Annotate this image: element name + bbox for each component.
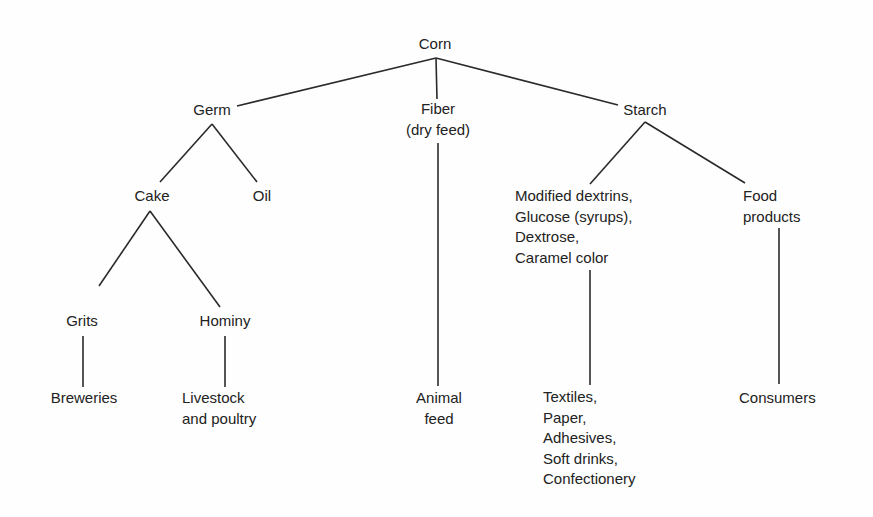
edge-germ-cake — [160, 124, 212, 182]
node-grits: Grits — [66, 311, 98, 332]
node-animal-feed: Animal feed — [416, 388, 462, 429]
node-corn: Corn — [419, 34, 452, 55]
node-label: Animal — [416, 388, 462, 409]
tree-edges — [0, 0, 873, 517]
node-label: Textiles, — [543, 387, 636, 408]
node-industrial-uses: Textiles, Paper, Adhesives, Soft drinks,… — [543, 387, 636, 490]
node-label: (dry feed) — [406, 120, 470, 141]
edge-cake-grits — [99, 211, 150, 286]
node-label: Confectionery — [543, 469, 636, 490]
node-germ: Germ — [193, 100, 231, 121]
node-consumers: Consumers — [739, 388, 816, 409]
node-hominy: Hominy — [200, 311, 251, 332]
edge-corn-fiber — [436, 58, 437, 99]
node-breweries: Breweries — [51, 388, 118, 409]
edge-germ-oil — [212, 124, 257, 182]
node-oil: Oil — [253, 186, 271, 207]
node-label: Dextrose, — [515, 227, 633, 248]
node-label: Cake — [134, 186, 169, 207]
node-label: Starch — [623, 100, 666, 121]
node-label: feed — [416, 409, 462, 430]
corn-products-tree-diagram: Corn Germ Fiber (dry feed) Starch Cake O… — [0, 0, 873, 517]
node-label: Livestock — [182, 388, 256, 409]
node-starch-derivatives: Modified dextrins, Glucose (syrups), Dex… — [515, 186, 633, 268]
node-label: Breweries — [51, 388, 118, 409]
node-food-products: Food products — [743, 186, 801, 227]
node-cake: Cake — [134, 186, 169, 207]
node-starch: Starch — [623, 100, 666, 121]
node-label: Soft drinks, — [543, 449, 636, 470]
node-label: Consumers — [739, 388, 816, 409]
node-label: Oil — [253, 186, 271, 207]
node-livestock-and-poultry: Livestock and poultry — [182, 388, 256, 429]
edge-corn-starch — [436, 58, 618, 105]
node-label: Germ — [193, 100, 231, 121]
node-label: Fiber — [406, 99, 470, 120]
node-label: products — [743, 207, 801, 228]
node-label: and poultry — [182, 409, 256, 430]
node-label: Paper, — [543, 408, 636, 429]
edge-starch-food-products — [645, 122, 745, 183]
node-label: Corn — [419, 34, 452, 55]
node-label: Caramel color — [515, 248, 633, 269]
node-label: Modified dextrins, — [515, 186, 633, 207]
node-label: Adhesives, — [543, 428, 636, 449]
node-fiber: Fiber (dry feed) — [406, 99, 470, 140]
node-label: Hominy — [200, 311, 251, 332]
node-label: Grits — [66, 311, 98, 332]
node-label: Glucose (syrups), — [515, 207, 633, 228]
edge-starch-derivatives — [590, 122, 645, 184]
edge-cake-hominy — [150, 211, 220, 307]
node-label: Food — [743, 186, 801, 207]
